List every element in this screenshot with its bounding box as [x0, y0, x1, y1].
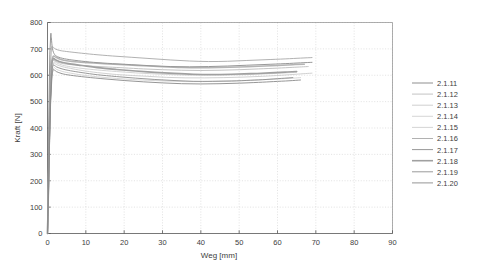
x-tick-label: 70: [312, 238, 320, 247]
x-tick-label: 20: [120, 238, 128, 247]
chart-legend: 2.1.112.1.122.1.132.1.142.1.152.1.162.1.…: [412, 79, 458, 188]
y-tick-label: 700: [30, 45, 43, 54]
chart-figure: 0102030405060708090010020030040050060070…: [0, 0, 485, 265]
series-line-2-1-19: [48, 65, 293, 234]
y-tick-label: 800: [30, 18, 43, 27]
series-line-2-1-13: [48, 63, 313, 234]
legend-label-2-1-14: 2.1.14: [437, 112, 458, 121]
x-axis-title: Weg [mm]: [201, 251, 237, 260]
legend-label-2-1-20: 2.1.20: [437, 179, 458, 188]
x-tick-label: 30: [158, 238, 166, 247]
legend-label-2-1-16: 2.1.16: [437, 134, 458, 143]
legend-label-2-1-18: 2.1.18: [437, 157, 458, 166]
y-tick-label: 300: [30, 150, 43, 159]
legend-label-2-1-15: 2.1.15: [437, 123, 458, 132]
legend-label-2-1-19: 2.1.19: [437, 168, 458, 177]
y-tick-label: 600: [30, 71, 43, 80]
legend-label-2-1-11: 2.1.11: [437, 79, 457, 88]
grid-lines: [48, 23, 393, 234]
y-tick-label: 100: [30, 203, 43, 212]
x-tick-label: 90: [388, 238, 396, 247]
x-tick-label: 60: [273, 238, 281, 247]
series-line-2-1-20: [48, 69, 301, 233]
line-chart-canvas: 0102030405060708090010020030040050060070…: [0, 0, 485, 265]
legend-label-2-1-17: 2.1.17: [437, 146, 458, 155]
data-series-group: [48, 33, 313, 233]
series-line-2-1-12: [48, 60, 309, 233]
series-line-2-1-14: [48, 67, 301, 233]
y-tick-label: 400: [30, 124, 43, 133]
x-tick-label: 50: [235, 238, 243, 247]
axis-tick-labels: 0102030405060708090010020030040050060070…: [30, 18, 397, 246]
y-tick-label: 500: [30, 97, 43, 106]
x-tick-label: 80: [350, 238, 358, 247]
y-tick-label: 0: [38, 229, 42, 238]
legend-label-2-1-13: 2.1.13: [437, 101, 458, 110]
y-axis-title: Kraft [N]: [13, 113, 22, 142]
x-tick-label: 0: [45, 238, 49, 247]
x-tick-label: 40: [197, 238, 205, 247]
legend-label-2-1-12: 2.1.12: [437, 90, 458, 99]
series-line-2-1-15: [48, 62, 297, 234]
x-tick-label: 10: [82, 238, 90, 247]
y-tick-label: 200: [30, 177, 43, 186]
